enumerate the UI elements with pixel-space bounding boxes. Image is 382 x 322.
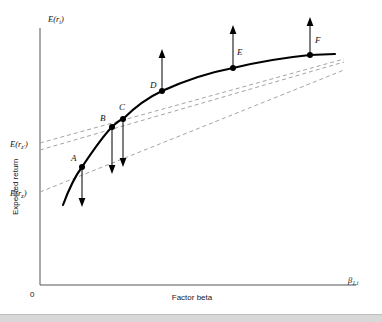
security-market-line-upper: [40, 59, 344, 143]
x-axis-title: Factor beta: [172, 293, 213, 302]
y-axis-title: Expected return: [11, 159, 20, 215]
svg-text:E(rz'): E(rz'): [9, 139, 28, 150]
arrow-a-down: [79, 167, 86, 207]
data-point-b: [109, 124, 115, 130]
svg-text:β1,i: β1,i: [347, 275, 359, 286]
intercept-upper-paren: ): [24, 139, 28, 149]
data-point-label-c: C: [119, 102, 126, 112]
origin-label: 0: [30, 290, 35, 299]
x-axis-variable-label: β1,i: [347, 275, 359, 286]
svg-text:E(ri): E(ri): [47, 14, 64, 25]
data-point-a: [79, 164, 85, 170]
data-point-label-a: A: [70, 153, 77, 163]
intercept-lower-paren: ): [23, 188, 27, 198]
data-point-c: [120, 116, 126, 122]
intercept-upper-main: E(r: [9, 139, 22, 149]
data-point-label-b: B: [100, 113, 106, 123]
data-point-f: [307, 52, 313, 58]
data-point-e: [230, 65, 236, 71]
y-axis-label-main: E(r: [47, 14, 60, 24]
data-point-label-d: D: [149, 80, 157, 90]
arrow-e-up: [230, 25, 237, 68]
data-point-d: [159, 88, 165, 94]
bottom-border-band: [0, 314, 382, 322]
empirical-return-curve: [63, 54, 335, 205]
y-axis-variable-label: E(ri): [47, 14, 64, 25]
x-axis-label-subscript: 1,i: [352, 280, 359, 286]
arrow-d-up: [159, 49, 166, 91]
arrow-f-up: [307, 17, 314, 55]
security-market-line-middle: [40, 62, 344, 150]
security-market-line-lower: [40, 70, 344, 192]
data-point-label-f: F: [314, 35, 321, 45]
intercept-label-upper: E(rz'): [9, 139, 28, 150]
data-point-label-e: E: [236, 47, 243, 57]
y-axis-label-paren: ): [60, 14, 64, 24]
arrow-b-down: [109, 127, 116, 174]
